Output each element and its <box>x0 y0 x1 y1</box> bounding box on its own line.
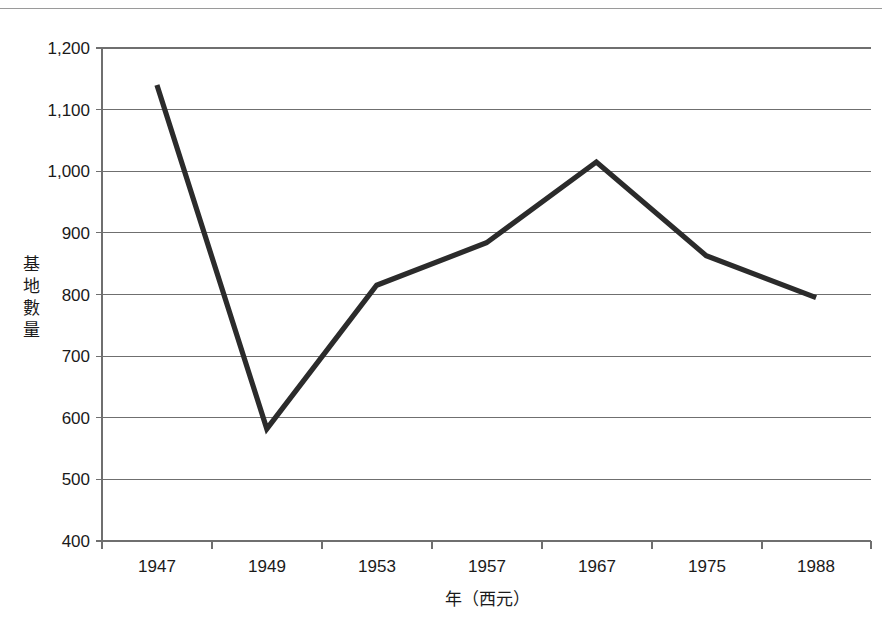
y-axis-tick-labels: 1,200 1,100 1,000 900 800 700 600 500 40… <box>47 39 90 551</box>
x-tick-label-1957: 1957 <box>468 557 506 576</box>
data-series-line <box>157 85 816 429</box>
y-tick-marks <box>96 48 102 541</box>
gridlines <box>102 48 871 479</box>
chart-page: 1,200 1,100 1,000 900 800 700 600 500 40… <box>0 0 882 625</box>
line-chart: 1,200 1,100 1,000 900 800 700 600 500 40… <box>0 0 882 625</box>
y-tick-label-1200: 1,200 <box>47 39 90 58</box>
y-tick-label-400: 400 <box>62 532 90 551</box>
x-axis-title: 年（西元） <box>445 589 530 609</box>
y-axis-title-char-0: 基 <box>23 254 40 274</box>
x-tick-label-1947: 1947 <box>138 557 176 576</box>
y-tick-label-700: 700 <box>62 347 90 366</box>
x-tick-label-1967: 1967 <box>578 557 616 576</box>
y-tick-label-1100: 1,100 <box>47 101 90 120</box>
y-axis-title-char-3: 量 <box>23 320 40 340</box>
x-tick-label-1975: 1975 <box>688 557 726 576</box>
x-tick-label-1988: 1988 <box>797 557 835 576</box>
y-tick-label-800: 800 <box>62 286 90 305</box>
y-axis-title: 基 地 數 量 <box>23 254 40 340</box>
x-tick-marks <box>102 541 871 549</box>
y-axis-title-char-1: 地 <box>23 276 40 296</box>
y-axis-title-char-2: 數 <box>23 298 40 318</box>
x-tick-label-1953: 1953 <box>358 557 396 576</box>
y-tick-label-1000: 1,000 <box>47 162 90 181</box>
y-tick-label-900: 900 <box>62 224 90 243</box>
y-tick-label-600: 600 <box>62 409 90 428</box>
x-axis-tick-labels: 1947 1949 1953 1957 1967 1975 1988 <box>138 557 835 576</box>
x-tick-label-1949: 1949 <box>248 557 286 576</box>
y-tick-label-500: 500 <box>62 470 90 489</box>
